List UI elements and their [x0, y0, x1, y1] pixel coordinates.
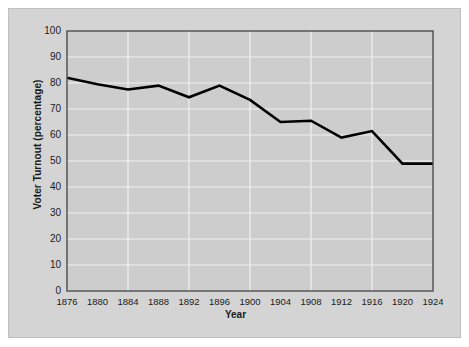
y-tick-label: 50: [31, 156, 61, 166]
y-tick-label: 90: [31, 52, 61, 62]
y-tick-label: 80: [31, 78, 61, 88]
y-tick-label: 20: [31, 234, 61, 244]
y-tick-label: 70: [31, 104, 61, 114]
plot-area: [9, 9, 462, 339]
y-tick-label: 40: [31, 182, 61, 192]
y-tick-label: 0: [31, 286, 61, 296]
y-tick-label: 100: [31, 26, 61, 36]
line-chart: Voter Turnout (percentage) Year 10090807…: [9, 9, 462, 339]
y-tick-label: 10: [31, 260, 61, 270]
chart-figure-panel: Voter Turnout (percentage) Year 10090807…: [8, 8, 461, 338]
x-axis-title: Year: [9, 309, 462, 320]
y-tick-label: 60: [31, 130, 61, 140]
y-tick-label: 30: [31, 208, 61, 218]
x-tick-label: 1924: [413, 297, 453, 307]
